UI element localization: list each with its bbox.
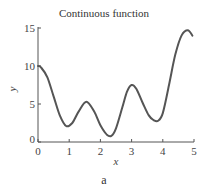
y-axis-label: y	[6, 86, 18, 92]
figure-caption: a	[0, 173, 208, 188]
y-tick-label: 0	[30, 133, 36, 145]
y-tick-label: 5	[30, 98, 36, 110]
x-axis-label: x	[113, 155, 119, 167]
y-tick-label: 10	[24, 60, 36, 72]
line-chart: 051015 012345 x y	[0, 0, 208, 190]
function-curve	[38, 30, 192, 136]
x-tick-label: 4	[160, 145, 166, 157]
x-tick-label: 0	[35, 145, 41, 157]
axes	[38, 27, 194, 142]
x-tick-label: 2	[98, 145, 104, 157]
y-tick-label: 15	[24, 22, 36, 34]
x-tick-label: 1	[66, 145, 72, 157]
x-tick-label: 3	[129, 145, 135, 157]
x-tick-label: 5	[191, 145, 197, 157]
